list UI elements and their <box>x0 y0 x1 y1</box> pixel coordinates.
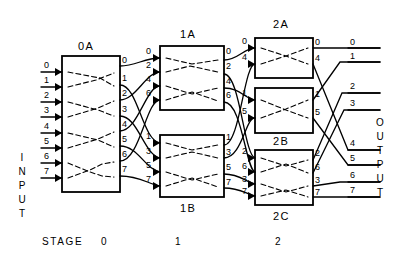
stage-word-label: STAGE <box>42 236 83 247</box>
output-port-label-7: 7 <box>350 185 355 195</box>
switch-label-2b: 2B <box>273 135 289 147</box>
stage-number-0: 0 <box>101 236 108 247</box>
switch-1b-in-1: 1 <box>146 131 151 141</box>
switch-1a-out-4: 4 <box>226 76 231 86</box>
switch-box-outlines <box>62 38 313 205</box>
switch-2c-out-3: 3 <box>315 175 320 185</box>
output-port-label-3: 3 <box>350 98 355 108</box>
switch-1a-internal-dashed <box>166 58 218 101</box>
switch-1a-in-0: 0 <box>146 46 151 56</box>
input-port-label-1: 1 <box>44 75 49 85</box>
stage-number-1: 1 <box>175 236 182 247</box>
input-port-label-4: 4 <box>44 121 49 131</box>
output-word-label: OUTPUT <box>372 88 388 228</box>
network-wiring-svg <box>0 0 401 266</box>
switch-2b-internal-dashed <box>261 100 308 118</box>
arrowheads <box>55 44 255 200</box>
switch-label-2c: 2C <box>273 210 290 222</box>
switch-1b-out-1: 1 <box>226 132 231 142</box>
stage2-to-output-wires <box>313 48 380 197</box>
switch-label-1b: 1B <box>180 202 196 214</box>
switch-0a-out-7: 7 <box>122 164 127 174</box>
input-port-label-3: 3 <box>44 105 49 115</box>
switch-2c-out-7: 7 <box>315 187 320 197</box>
switch-2a-in-0: 0 <box>242 36 247 46</box>
switch-2a-out-4: 4 <box>315 53 320 63</box>
switch-0a-out-1: 1 <box>122 73 127 83</box>
switch-0a-out-6: 6 <box>122 149 127 159</box>
switch-1b-out-5: 5 <box>226 162 231 172</box>
switch-0a-out-3: 3 <box>122 104 127 114</box>
switch-label-2a: 2A <box>273 18 289 30</box>
output-port-label-5: 5 <box>350 153 355 163</box>
switch-1b-in-3: 3 <box>146 146 151 156</box>
switch-2b-out-5: 5 <box>315 107 320 117</box>
switch-2c-in-7: 7 <box>242 186 247 196</box>
output-port-label-1: 1 <box>350 51 355 61</box>
switch-0a-out-5: 5 <box>122 134 127 144</box>
switch-2c-in-6: 6 <box>242 161 247 171</box>
switch-1b-in-7: 7 <box>146 174 151 184</box>
switch-0a-out-2: 2 <box>122 88 127 98</box>
output-port-label-2: 2 <box>350 81 355 91</box>
input-port-label-7: 7 <box>44 166 49 176</box>
output-port-label-0: 0 <box>350 37 355 47</box>
switch-1a-in-2: 2 <box>146 60 151 70</box>
switch-2c-out-6: 6 <box>315 162 320 172</box>
output-port-label-6: 6 <box>350 170 355 180</box>
switch-1b-internal-dashed <box>166 143 218 187</box>
switch-1a-out-2: 2 <box>226 61 231 71</box>
switch-label-0a: 0A <box>78 40 94 52</box>
switch-0a-internal-dashed <box>68 72 114 178</box>
switch-label-1a: 1A <box>180 28 196 40</box>
input-port-label-0: 0 <box>44 60 49 70</box>
switch-2a-internal-dashed <box>261 48 308 64</box>
switching-network-diagram: INPUT OUTPUT 0 1 2 3 4 5 6 7 0A 0 1 2 3 … <box>0 0 401 266</box>
switch-1b-in-5: 5 <box>146 160 151 170</box>
switch-1b-out-3: 3 <box>226 147 231 157</box>
switch-0a-out-4: 4 <box>122 119 127 129</box>
stage-number-2: 2 <box>275 236 282 247</box>
switch-1a-in-4: 4 <box>146 74 151 84</box>
switch-1b-out-7: 7 <box>226 177 231 187</box>
input-word-label: INPUT <box>15 95 29 249</box>
switch-2b-out-1: 1 <box>315 89 320 99</box>
switch-2b-in-5: 5 <box>242 106 247 116</box>
input-port-label-2: 2 <box>44 90 49 100</box>
switch-2a-out-0: 0 <box>315 37 320 47</box>
switch-2c-in-2: 2 <box>242 146 247 156</box>
switch-1a-out-6: 6 <box>226 90 231 100</box>
switch-2c-internal-dashed <box>261 158 308 197</box>
switch-0a-out-0: 0 <box>122 55 127 65</box>
switch-2c-in-3: 3 <box>242 174 247 184</box>
input-port-label-6: 6 <box>44 151 49 161</box>
switch-2c-out-2: 2 <box>315 148 320 158</box>
switch-1a-out-0: 0 <box>226 46 231 56</box>
switch-2b-in-1: 1 <box>242 88 247 98</box>
input-port-label-5: 5 <box>44 136 49 146</box>
switch-2a-in-4: 4 <box>242 52 247 62</box>
output-port-label-4: 4 <box>350 138 355 148</box>
switch-1a-in-6: 6 <box>146 88 151 98</box>
